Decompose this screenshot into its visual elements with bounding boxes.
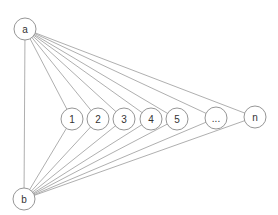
edge-a-ellipsis [25,29,216,118]
node-1: 1 [61,108,83,130]
node-label: ... [212,113,220,124]
edge-a-n [25,29,255,117]
node-5: 5 [166,108,188,130]
node-label: a [22,24,28,35]
node-label: 4 [148,114,154,125]
edge-a-2 [25,29,98,119]
node-label: 3 [121,114,127,125]
edge-b-n [24,117,255,199]
node-4: 4 [140,108,162,130]
node-label: 5 [174,114,180,125]
edge-a-5 [25,29,177,119]
node-2: 2 [87,108,109,130]
node-label: b [21,194,27,205]
node-label: 2 [95,114,101,125]
edge-a-4 [25,29,151,119]
edge-a-b [24,29,25,199]
graph-diagram: ab12345...n [0,0,278,215]
edge-b-5 [24,119,177,199]
node-b: b [13,188,35,210]
edge-b-4 [24,119,151,199]
nodes: ab12345...n [13,18,266,210]
node-ellipsis: ... [205,107,227,129]
edge-a-3 [25,29,124,119]
edge-b-ellipsis [24,118,216,199]
node-label: 1 [69,114,75,125]
node-n: n [244,106,266,128]
node-3: 3 [113,108,135,130]
node-label: n [252,112,258,123]
edge-b-1 [24,119,72,199]
edge-b-3 [24,119,124,199]
node-a: a [14,18,36,40]
